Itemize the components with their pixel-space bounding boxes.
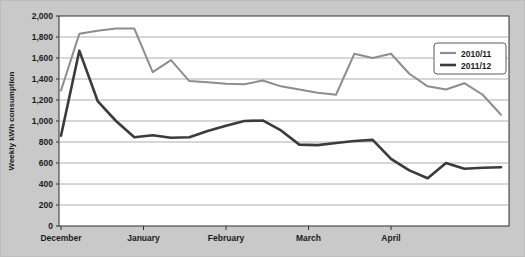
y-axis-tick-label: 400 xyxy=(39,179,53,189)
x-axis-tick-label: January xyxy=(127,233,160,243)
chart-legend: 2010/11 2011/12 xyxy=(434,43,506,74)
y-axis-tick-label: 1,600 xyxy=(32,53,54,63)
legend-label-2011-12: 2011/12 xyxy=(461,61,492,71)
y-axis-title: Weekly kWh consumption xyxy=(7,71,16,170)
x-axis-tick-label: February xyxy=(208,233,245,243)
y-axis-tick-label: 200 xyxy=(39,200,53,210)
x-axis-tick-label: March xyxy=(296,233,321,243)
y-axis-tick-label: 1,800 xyxy=(32,32,54,42)
y-axis-tick-label: 1,200 xyxy=(32,95,54,105)
y-axis-tick-label: 1,400 xyxy=(32,74,54,84)
line-chart: 02004006008001,0001,2001,4001,6001,8002,… xyxy=(0,0,525,257)
y-axis-tick-labels: 02004006008001,0001,2001,4001,6001,8002,… xyxy=(32,11,54,231)
y-axis-tick-label: 1,000 xyxy=(32,116,54,126)
y-axis-tick-label: 2,000 xyxy=(32,11,54,21)
legend-label-2010-11: 2010/11 xyxy=(461,49,492,59)
chart-figure: 02004006008001,0001,2001,4001,6001,8002,… xyxy=(0,0,525,257)
x-axis-tick-labels: DecemberJanuaryFebruaryMarchApril xyxy=(40,233,400,243)
x-axis-ticks xyxy=(61,226,391,230)
y-axis-tick-label: 800 xyxy=(39,137,53,147)
x-axis-tick-label: April xyxy=(381,233,400,243)
x-axis-tick-label: December xyxy=(40,233,82,243)
y-axis-tick-label: 600 xyxy=(39,158,53,168)
y-axis-tick-label: 0 xyxy=(48,221,53,231)
